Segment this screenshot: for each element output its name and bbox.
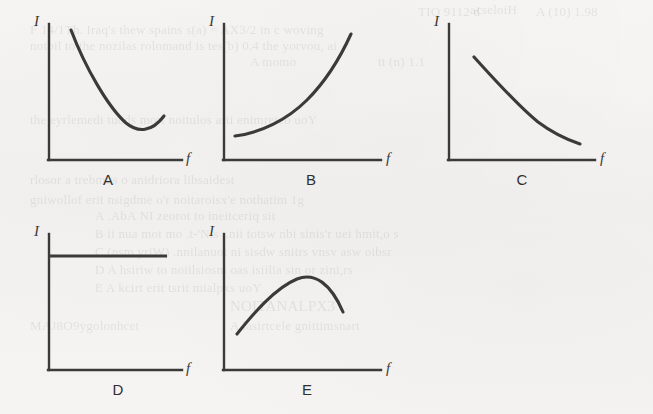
graph-b-y-label: I xyxy=(209,14,214,29)
graph-panel-d: I f D xyxy=(40,222,220,407)
graph-a-x-label: f xyxy=(186,151,190,166)
graph-panel-e: I f E xyxy=(215,222,405,407)
graph-d-panel-letter: D xyxy=(108,382,128,397)
graph-c-x-label: f xyxy=(600,151,604,166)
graph-e-x-label: f xyxy=(386,361,390,376)
graph-e-y-label: I xyxy=(209,224,214,239)
graph-panel-a: I f A xyxy=(40,12,220,197)
graph-a-svg xyxy=(40,12,220,197)
graph-d-y-label: I xyxy=(34,224,39,239)
graph-d-x-label: f xyxy=(186,361,190,376)
graph-a-y-label: I xyxy=(34,14,39,29)
graph-panel-c: I f C xyxy=(440,12,625,197)
graph-a-curve xyxy=(71,30,164,129)
figure-page: acseloiHA (10) 1.98TIO 9112 dF 14/1Th. I… xyxy=(0,0,653,414)
graph-e-panel-letter: E xyxy=(297,382,317,397)
graph-c-panel-letter: C xyxy=(512,172,532,187)
graph-c-y-label: I xyxy=(434,14,439,29)
graph-a-panel-letter: A xyxy=(98,172,118,187)
graph-panel-b: I f B xyxy=(215,12,405,197)
graph-b-curve xyxy=(235,34,351,136)
graph-b-x-label: f xyxy=(386,151,390,166)
graph-c-svg xyxy=(440,12,625,197)
graph-b-panel-letter: B xyxy=(301,172,321,187)
graph-b-svg xyxy=(215,12,405,197)
graph-d-svg xyxy=(40,222,220,407)
graph-e-svg xyxy=(215,222,405,407)
graph-e-curve xyxy=(237,277,343,334)
graph-c-curve xyxy=(474,57,580,144)
